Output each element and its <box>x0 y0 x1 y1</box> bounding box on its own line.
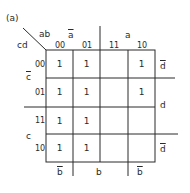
left-group-c-bar: c <box>26 72 31 82</box>
row-code-00: 00 <box>35 60 45 70</box>
cell-r3-c1: 1 <box>73 134 100 162</box>
cell-r2-c0: 1 <box>46 107 73 135</box>
bottom-group-b: b <box>96 167 102 177</box>
corner-left-vars: cd <box>17 40 28 50</box>
right-group-d-bar-bottom: d <box>160 144 166 154</box>
row-code-10: 10 <box>35 144 45 154</box>
row-code-11: 11 <box>35 116 45 126</box>
cell-r0-c1: 1 <box>73 50 100 78</box>
cell-r3-c3 <box>128 134 155 162</box>
bottom-group-b-bar-left: b <box>57 167 63 177</box>
cell-r0-c3: 1 <box>128 50 155 78</box>
cell-r2-c1: 1 <box>73 107 100 135</box>
bottom-group-b-bar-right: b <box>137 167 143 177</box>
cell-r3-c0: 1 <box>46 134 73 162</box>
cell-r1-c3: 1 <box>128 78 155 106</box>
top-group-a-bar: a <box>68 30 74 40</box>
top-group-a: a <box>125 30 131 40</box>
cell-r2-c2 <box>100 107 127 135</box>
cell-r2-c3 <box>128 107 155 135</box>
cell-r3-c2 <box>100 134 127 162</box>
right-group-d: d <box>160 100 166 110</box>
cell-r1-c0: 1 <box>46 78 73 106</box>
cell-r1-c2 <box>100 78 127 106</box>
left-group-c: c <box>26 131 31 141</box>
right-group-d-bar-top: d <box>160 61 166 71</box>
corner-top-vars: ab <box>39 29 50 39</box>
cell-r0-c0: 1 <box>46 50 73 78</box>
cell-r0-c2 <box>100 50 127 78</box>
figure-label: (a) <box>6 13 19 23</box>
cell-r1-c1: 1 <box>73 78 100 106</box>
row-code-01: 01 <box>35 88 45 98</box>
